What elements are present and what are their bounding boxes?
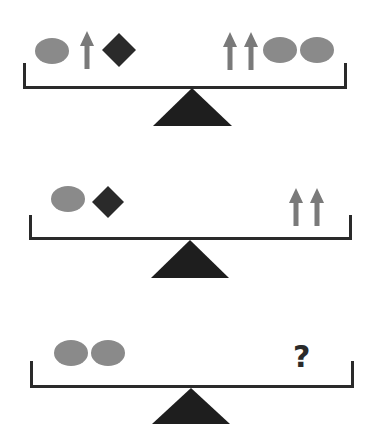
oval-icon [300,37,334,63]
oval-icon [263,37,297,63]
scale-1-left-pan-items [35,31,136,69]
oval-icon [51,186,85,212]
balance-puzzle-diagram [0,0,375,448]
arrow-up-icon [80,31,94,69]
diamond-icon [92,186,124,218]
arrow-up-icon [289,188,303,226]
scale-2-fulcrum [151,240,229,278]
arrow-up-icon [310,188,324,226]
scale-1-beam [25,63,346,88]
scale-2 [31,186,351,278]
arrow-up-icon [223,32,237,70]
scale-1-right-pan-items [223,32,334,70]
oval-icon [54,340,88,366]
scale-2-beam [31,215,351,239]
scale-2-left-pan-items [51,186,124,218]
arrow-up-icon [244,32,258,70]
question-mark-unknown: ? [293,342,310,372]
scale-1 [25,31,346,126]
scale-1-fulcrum [153,88,232,126]
oval-icon [91,340,125,366]
scale-3-left-pan-items [54,340,125,366]
scale-3-fulcrum [152,388,230,424]
scale-2-right-pan-items [289,188,324,226]
diamond-icon [102,33,136,67]
oval-icon [35,38,69,64]
